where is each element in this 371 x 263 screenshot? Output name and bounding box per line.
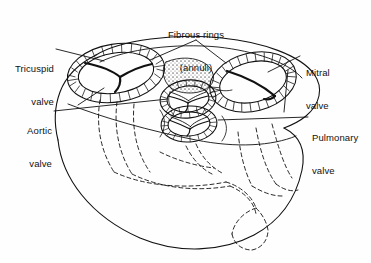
label-mitral-valve-line1: Mitral xyxy=(306,67,368,78)
label-aortic-valve-line2: valve xyxy=(0,158,52,169)
label-pulmonary-valve: Pulmonary valve xyxy=(312,110,371,198)
label-pulmonary-valve-line1: Pulmonary xyxy=(312,132,371,143)
label-fibrous-rings: Fibrous rings (annuli) xyxy=(146,7,246,95)
label-fibrous-rings-line1: Fibrous rings xyxy=(146,29,246,40)
ventricle-hidden-outline xyxy=(99,100,298,250)
heart-valve-diagram: Fibrous rings (annuli) Tricuspid valve A… xyxy=(0,0,371,263)
label-aortic-valve: Aortic valve xyxy=(0,103,52,191)
label-aortic-valve-line1: Aortic xyxy=(0,125,52,136)
label-tricuspid-valve-line1: Tricuspid xyxy=(0,63,54,74)
label-pulmonary-valve-line2: valve xyxy=(312,165,371,176)
label-fibrous-rings-line2: (annuli) xyxy=(146,62,246,73)
tricuspid-cusp-lines xyxy=(85,63,152,92)
